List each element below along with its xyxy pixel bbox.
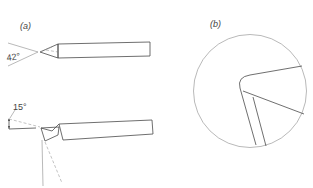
arrow-down-icon: [8, 126, 10, 129]
arrow-up-icon: [8, 118, 10, 121]
tool-side-view: [8, 110, 153, 186]
angle-label-42: 42°: [6, 51, 21, 63]
tip-facet-line: [40, 47, 52, 52]
angle-line-upper: [8, 43, 38, 52]
rake-line-15: [9, 119, 40, 127]
tool-shank-side: [59, 120, 153, 140]
relief-line-angled: [45, 142, 62, 183]
diagram-canvas: (a) 42° 15° (b): [0, 0, 313, 188]
panel-b-label: (b): [210, 19, 221, 29]
flank-edge: [253, 97, 266, 146]
tool-shank: [58, 42, 150, 58]
magnifier-circle: [194, 35, 307, 148]
angle-label-15: 15°: [13, 102, 27, 112]
horizontal-reference: [9, 128, 36, 129]
tip-centerline: [46, 50, 58, 52]
tool-top-view: [8, 42, 150, 66]
magnified-detail: [194, 35, 307, 148]
relief-line-vertical: [42, 140, 43, 186]
nose-radius-outline: [239, 66, 302, 145]
panel-a-label: (a): [20, 21, 31, 31]
clearance-edge: [243, 91, 304, 114]
